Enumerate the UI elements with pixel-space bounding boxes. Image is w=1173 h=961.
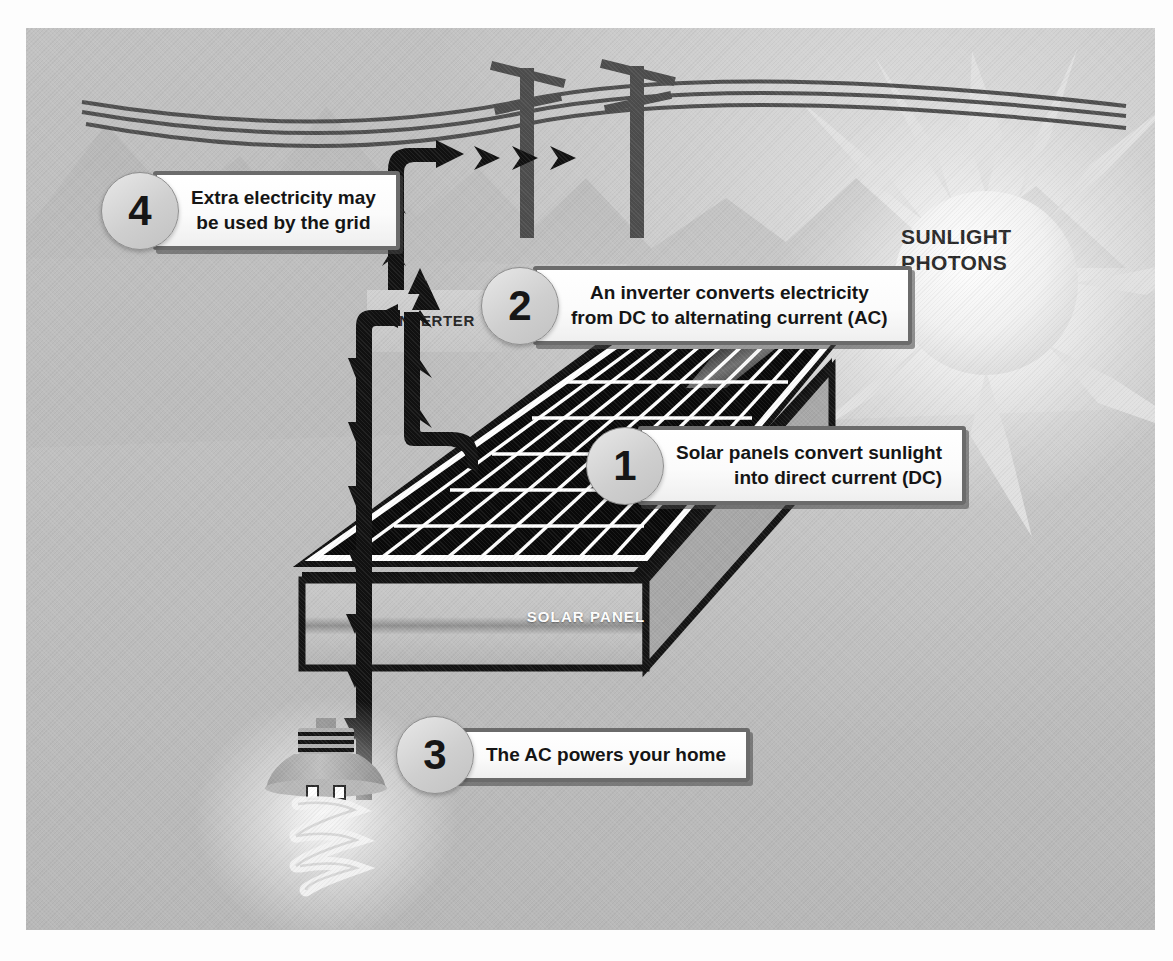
diagram-canvas: SUNLIGHT PHOTONS xyxy=(26,28,1155,930)
callout-1-box: Solar panels convert sunlight into direc… xyxy=(638,426,966,505)
infographic-stage: SUNLIGHT PHOTONS xyxy=(0,0,1173,961)
callout-1[interactable]: 1 Solar panels convert sunlight into dir… xyxy=(586,426,966,505)
callout-1-text: Solar panels convert sunlight into direc… xyxy=(676,441,942,490)
callout-1-badge: 1 xyxy=(586,427,664,505)
callout-4-badge: 4 xyxy=(101,172,179,250)
callout-4[interactable]: 4 Extra electricity may be used by the g… xyxy=(101,171,400,250)
callout-3-badge: 3 xyxy=(396,716,474,794)
callout-3-box: The AC powers your home xyxy=(448,728,750,783)
callout-2[interactable]: 2 An inverter converts electricity from … xyxy=(481,266,912,345)
callout-4-text: Extra electricity may be used by the gri… xyxy=(191,186,376,235)
callout-2-box: An inverter converts electricity from DC… xyxy=(533,266,912,345)
callout-2-text: An inverter converts electricity from DC… xyxy=(571,281,888,330)
callout-2-badge: 2 xyxy=(481,267,559,345)
callout-3[interactable]: 3 The AC powers your home xyxy=(396,716,750,794)
callout-4-box: Extra electricity may be used by the gri… xyxy=(153,171,400,250)
callout-3-text: The AC powers your home xyxy=(486,743,726,768)
